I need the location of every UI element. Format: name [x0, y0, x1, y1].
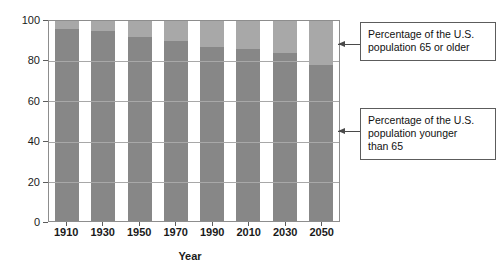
bar-1910: [55, 21, 79, 221]
y-tick-label-40: 40: [10, 136, 40, 146]
bar-segment-older-1970: [164, 21, 188, 41]
annotation-older-box: Percentage of the U.S. population 65 or …: [360, 22, 496, 61]
left-arrow-icon-older: [338, 44, 361, 45]
x-tick-label-1910: 1910: [51, 226, 81, 242]
x-tick-label-2050: 2050: [307, 226, 337, 242]
y-tick-label-60: 60: [10, 96, 40, 106]
bar-segment-older-1910: [55, 21, 79, 29]
bar-1970: [164, 21, 188, 221]
annotation-older-line2: population 65 or older: [368, 41, 488, 54]
bar-segment-older-2030: [273, 21, 297, 53]
x-axis-title: Year: [40, 250, 340, 262]
y-tick-label-100: 100: [10, 15, 40, 25]
x-tick-label-1970: 1970: [161, 226, 191, 242]
x-tick-label-1990: 1990: [197, 226, 227, 242]
annotation-older-line1: Percentage of the U.S.: [368, 28, 488, 41]
x-tick-label-2030: 2030: [270, 226, 300, 242]
bar-2050: [309, 21, 333, 221]
bar-series-group: [49, 21, 339, 221]
annotation-younger-line1: Percentage of the U.S.: [368, 114, 488, 127]
x-tick-label-1950: 1950: [124, 226, 154, 242]
bar-segment-younger-2030: [273, 53, 297, 221]
bar-segment-older-1950: [128, 21, 152, 37]
bar-2010: [236, 21, 260, 221]
annotation-younger-box: Percentage of the U.S. population younge…: [360, 108, 496, 160]
bar-2030: [273, 21, 297, 221]
bar-segment-older-2050: [309, 21, 333, 65]
annotation-younger-line3: than 65: [368, 140, 488, 153]
bar-segment-younger-2050: [309, 65, 333, 221]
y-tick-label-80: 80: [10, 55, 40, 65]
y-tick-mark-0: [43, 222, 48, 223]
x-axis-tick-labels: 19101930195019701990201020302050: [48, 226, 340, 242]
plot-area: [48, 20, 340, 222]
bar-segment-younger-1910: [55, 29, 79, 221]
annotation-younger-line2: population younger: [368, 127, 488, 140]
bar-segment-younger-1930: [91, 31, 115, 221]
bar-1950: [128, 21, 152, 221]
x-tick-label-1930: 1930: [88, 226, 118, 242]
y-tick-label-0: 0: [10, 217, 40, 227]
bar-segment-younger-1990: [200, 47, 224, 221]
bar-segment-younger-2010: [236, 49, 260, 221]
bar-1930: [91, 21, 115, 221]
bar-segment-older-1990: [200, 21, 224, 47]
bar-segment-younger-1970: [164, 41, 188, 221]
chart-figure: Percentage 100 80 60 40 20 0 191: [0, 0, 503, 272]
x-tick-label-2010: 2010: [234, 226, 264, 242]
bar-segment-younger-1950: [128, 37, 152, 221]
bar-segment-older-1930: [91, 21, 115, 31]
y-tick-label-20: 20: [10, 177, 40, 187]
bar-segment-older-2010: [236, 21, 260, 49]
bar-1990: [200, 21, 224, 221]
left-arrow-icon-younger: [338, 131, 361, 132]
